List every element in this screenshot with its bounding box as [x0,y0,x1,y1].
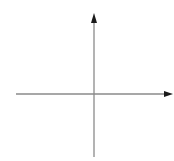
coordinate-axes-diagram [0,0,174,161]
x-axis-arrowhead-icon [164,91,173,97]
y-axis-arrowhead-icon [91,13,97,23]
